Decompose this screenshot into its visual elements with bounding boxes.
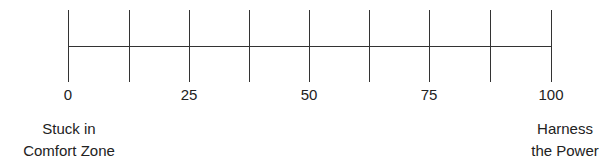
tick-label-0: 0 <box>64 86 72 103</box>
left-anchor-line1: Stuck in <box>22 118 116 140</box>
tick-12-5 <box>129 10 130 82</box>
right-anchor-line2: the Power <box>515 140 608 162</box>
tick-50 <box>309 10 310 82</box>
tick-25 <box>189 10 190 82</box>
tick-label-25: 25 <box>181 86 198 103</box>
right-anchor-label: Harness the Power <box>515 118 608 162</box>
tick-label-100: 100 <box>538 86 563 103</box>
left-anchor-label: Stuck in Comfort Zone <box>22 118 116 162</box>
tick-75 <box>429 10 430 82</box>
tick-87-5 <box>490 10 491 82</box>
tick-0 <box>68 10 69 82</box>
tick-label-75: 75 <box>421 86 438 103</box>
right-anchor-line1: Harness <box>515 118 608 140</box>
left-anchor-line2: Comfort Zone <box>22 140 116 162</box>
tick-37-5 <box>249 10 250 82</box>
tick-label-50: 50 <box>301 86 318 103</box>
tick-62-5 <box>369 10 370 82</box>
tick-100 <box>551 10 552 82</box>
